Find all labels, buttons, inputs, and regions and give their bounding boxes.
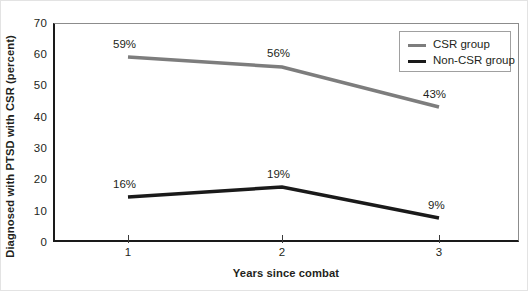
data-label-csr-3: 43% (423, 89, 446, 101)
y-tick-label-10: 10 (34, 206, 47, 218)
legend-item-non-csr-group: Non-CSR group (408, 53, 510, 69)
legend-swatch-icon-non-csr (408, 60, 426, 63)
data-label-non-csr-3: 9% (428, 200, 445, 212)
legend: CSR group Non-CSR group (399, 31, 511, 72)
y-tick-label-50: 50 (34, 80, 47, 92)
x-axis-title: Years since combat (53, 267, 519, 279)
chart-figure: Diagnosed with PTSD with CSR (percent) 7… (0, 0, 528, 291)
data-label-non-csr-2: 19% (267, 169, 290, 181)
x-tick-label-1: 1 (113, 247, 143, 259)
x-tick-mark-3 (439, 235, 440, 243)
legend-label-non-csr: Non-CSR group (433, 55, 515, 67)
y-tick-label-40: 40 (34, 112, 47, 124)
x-tick-label-3: 3 (424, 247, 454, 259)
x-tick-mark-1 (128, 235, 129, 243)
y-tick-label-20: 20 (34, 174, 47, 186)
y-tick-label-70: 70 (34, 18, 47, 30)
data-label-csr-2: 56% (267, 48, 290, 60)
y-tick-label-60: 60 (34, 49, 47, 61)
y-tick-label-30: 30 (34, 143, 47, 155)
x-tick-label-2: 2 (267, 247, 297, 259)
legend-label-csr: CSR group (433, 39, 490, 51)
data-label-csr-1: 59% (113, 39, 136, 51)
y-axis-tick-labels: 70 60 50 40 30 20 10 0 (23, 1, 47, 291)
y-axis-title: Diagnosed with PTSD with CSR (percent) (1, 1, 19, 291)
legend-swatch-icon-csr (408, 44, 426, 47)
y-tick-label-0: 0 (40, 237, 47, 249)
legend-item-csr-group: CSR group (408, 37, 510, 53)
data-label-non-csr-1: 16% (113, 179, 136, 191)
x-tick-mark-2 (282, 235, 283, 243)
